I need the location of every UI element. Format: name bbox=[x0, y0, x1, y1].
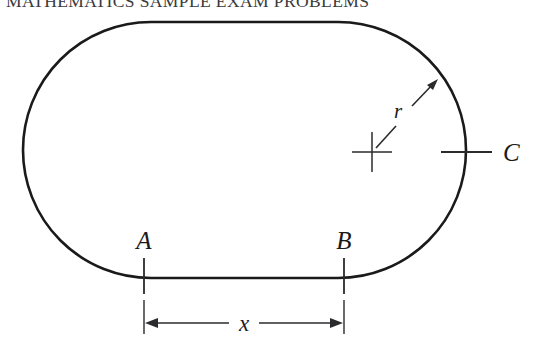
radius-arrow bbox=[376, 79, 438, 148]
point-a-label: A bbox=[134, 227, 152, 254]
dimension-arrowhead-left bbox=[145, 318, 158, 328]
dimension-x-label: x bbox=[238, 311, 250, 336]
figure-root: MATHEMATICS SAMPLE EXAM PROBLEMS r C A B bbox=[0, 0, 538, 356]
radius-label: r bbox=[394, 99, 403, 123]
dimension-arrowhead-right bbox=[330, 318, 343, 328]
radius-arrow-lower-segment bbox=[376, 126, 396, 148]
point-c-label: C bbox=[503, 139, 520, 166]
stadium-outline bbox=[23, 22, 466, 278]
stadium-diagram: r C A B x bbox=[0, 0, 538, 356]
point-b-label: B bbox=[336, 227, 351, 254]
